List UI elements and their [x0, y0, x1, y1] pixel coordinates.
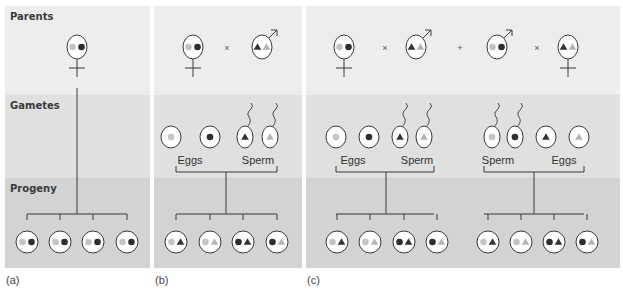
light-allele-dot-icon — [329, 239, 336, 246]
gamete-label: Eggs — [340, 154, 366, 166]
dark-allele-dot-icon — [235, 239, 242, 246]
dark-allele-dot-icon — [78, 44, 85, 51]
progeny-cell — [16, 231, 38, 253]
progeny-cell — [165, 231, 187, 253]
dark-allele-dot-icon — [396, 239, 403, 246]
progeny-cell — [576, 231, 598, 253]
parent-cell — [558, 35, 578, 59]
plus-symbol: + — [457, 43, 462, 53]
dark-allele-dot-icon — [128, 239, 135, 246]
panel-label: (c) — [307, 274, 320, 286]
egg-cell — [359, 126, 379, 148]
light-allele-dot-icon — [19, 239, 26, 246]
progeny-cell — [426, 231, 448, 253]
parent-cell — [252, 35, 272, 59]
progeny-cell — [232, 231, 254, 253]
light-allele-dot-icon — [168, 239, 175, 246]
progeny-cell — [116, 231, 138, 253]
progeny-band — [306, 178, 620, 268]
dark-allele-dot-icon — [498, 44, 505, 51]
gametes-band-label: Gametes — [10, 100, 60, 111]
dark-allele-dot-icon — [28, 239, 35, 246]
parents-band-label: Parents — [10, 11, 53, 22]
progeny-cell — [543, 231, 565, 253]
light-allele-dot-icon — [362, 239, 369, 246]
dark-allele-dot-icon — [194, 44, 201, 51]
dark-allele-dot-icon — [269, 239, 276, 246]
egg-cell — [326, 126, 346, 148]
panel-b: (b)×EggsSperm — [154, 6, 302, 286]
gamete-label: Eggs — [177, 154, 203, 166]
light-allele-dot-icon — [489, 44, 496, 51]
egg-cell — [536, 126, 556, 148]
light-allele-dot-icon — [489, 134, 496, 141]
progeny-cell — [266, 231, 288, 253]
cross-symbol: × — [382, 43, 387, 53]
dark-allele-dot-icon — [345, 44, 352, 51]
light-allele-dot-icon — [513, 239, 520, 246]
dark-allele-dot-icon — [546, 239, 553, 246]
parent-cell — [67, 35, 87, 59]
parent-cell — [406, 35, 426, 59]
cross-symbol: × — [224, 43, 229, 53]
light-allele-dot-icon — [69, 44, 76, 51]
light-allele-dot-icon — [480, 239, 487, 246]
light-allele-dot-icon — [52, 239, 59, 246]
light-allele-dot-icon — [119, 239, 126, 246]
parent-cell — [183, 35, 203, 59]
dark-allele-dot-icon — [579, 239, 586, 246]
parent-cell — [487, 35, 507, 59]
dark-allele-dot-icon — [207, 134, 214, 141]
progeny-cell — [393, 231, 415, 253]
progeny-cell — [82, 231, 104, 253]
panel-a: (a) — [5, 6, 150, 286]
dark-allele-dot-icon — [94, 239, 101, 246]
light-allele-dot-icon — [168, 134, 175, 141]
dark-allele-dot-icon — [429, 239, 436, 246]
progeny-cell — [359, 231, 381, 253]
light-allele-dot-icon — [185, 44, 192, 51]
progeny-band — [154, 178, 302, 268]
light-allele-dot-icon — [202, 239, 209, 246]
light-allele-dot-icon — [336, 44, 343, 51]
cell-membrane — [558, 35, 578, 59]
gamete-label: Eggs — [551, 154, 577, 166]
light-allele-dot-icon — [333, 134, 340, 141]
cell-membrane — [252, 35, 272, 59]
dark-allele-dot-icon — [512, 134, 519, 141]
progeny-cell — [477, 231, 499, 253]
progeny-band-label: Progeny — [10, 183, 57, 194]
cell-membrane — [406, 35, 426, 59]
dark-allele-dot-icon — [366, 134, 373, 141]
panel-label: (b) — [155, 274, 168, 286]
gamete-label: Sperm — [482, 154, 514, 166]
gamete-label: Sperm — [242, 154, 274, 166]
gamete-label: Sperm — [401, 154, 433, 166]
parent-cell — [334, 35, 354, 59]
progeny-cell — [326, 231, 348, 253]
inheritance-diagram: (a)(b)×EggsSperm(c)×+×EggsSpermSpermEggs… — [0, 0, 623, 294]
egg-cell — [161, 126, 181, 148]
panel-c: (c)×+×EggsSpermSpermEggs — [306, 6, 620, 286]
progeny-cell — [49, 231, 71, 253]
cross-symbol: × — [534, 43, 539, 53]
panel-label: (a) — [6, 274, 19, 286]
egg-cell — [569, 126, 589, 148]
light-allele-dot-icon — [85, 239, 92, 246]
egg-cell — [200, 126, 220, 148]
progeny-cell — [199, 231, 221, 253]
progeny-cell — [510, 231, 532, 253]
dark-allele-dot-icon — [61, 239, 68, 246]
